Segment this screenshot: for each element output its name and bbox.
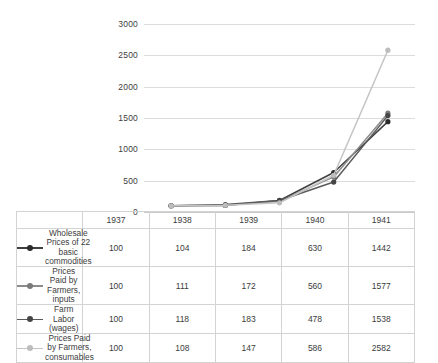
- y-axis-tick-label: 1000: [118, 144, 138, 154]
- data-table-container: 1937 1938 1939 1940 1941 Wholesale Price…: [16, 211, 415, 363]
- data-point-marker: [385, 113, 390, 118]
- table-cell-value: 1538: [348, 305, 414, 334]
- legend-marker-icon: [17, 315, 43, 324]
- series-legend-cell: Prices Paid by Farmers, consumables: [17, 334, 83, 363]
- table-cell-value: 478: [282, 305, 348, 334]
- table-cell-value: 147: [215, 334, 281, 363]
- legend-marker-icon: [17, 344, 43, 353]
- legend-marker-icon: [17, 281, 43, 290]
- table-cell-value: 2582: [348, 334, 414, 363]
- data-point-marker: [385, 119, 390, 124]
- data-point-marker: [331, 173, 336, 178]
- table-cell-value: 1577: [348, 267, 414, 305]
- plot-area: [144, 0, 415, 214]
- series-line: [171, 50, 388, 206]
- column-header-year: 1940: [282, 212, 348, 229]
- table-cell-value: 111: [149, 267, 215, 305]
- series-legend-cell: Wholesale Prices of 22 basic commodities: [17, 229, 83, 267]
- table-cell-value: 630: [282, 229, 348, 267]
- table-corner-cell: [17, 212, 83, 229]
- table-cell-value: 1442: [348, 229, 414, 267]
- series-4: [169, 48, 391, 209]
- y-axis-tick-label: 500: [123, 176, 138, 186]
- table-cell-value: 108: [149, 334, 215, 363]
- series-label: Wholesale Prices of 22 basic commodities: [45, 229, 92, 266]
- series-label: Prices Paid by Farmers, consumables: [45, 334, 94, 362]
- series-2: [169, 111, 391, 209]
- y-axis-tick-label: 2500: [118, 50, 138, 60]
- series-line: [171, 116, 388, 206]
- table-cell-value: 586: [282, 334, 348, 363]
- table-header-row: 1937 1938 1939 1940 1941: [17, 212, 415, 229]
- series-label: Prices Paid by Farmers, inputs: [45, 267, 82, 304]
- table-row: Prices Paid by Farmers, consumables10010…: [17, 334, 415, 363]
- series-label: Farm Labor (wages): [45, 305, 82, 333]
- data-point-marker: [223, 203, 228, 208]
- table-cell-value: 184: [215, 229, 281, 267]
- series-legend-cell: Farm Labor (wages): [17, 305, 83, 334]
- series-3: [169, 113, 391, 208]
- table-cell-value: 100: [83, 267, 149, 305]
- data-table: 1937 1938 1939 1940 1941 Wholesale Price…: [16, 211, 415, 363]
- series-legend-cell: Prices Paid by Farmers, inputs: [17, 267, 83, 305]
- y-axis-tick-label: 2000: [118, 82, 138, 92]
- table-row: Wholesale Prices of 22 basic commodities…: [17, 229, 415, 267]
- column-header-year: 1938: [149, 212, 215, 229]
- table-row: Farm Labor (wages)1001181834781538: [17, 305, 415, 334]
- table-body: Wholesale Prices of 22 basic commodities…: [17, 229, 415, 363]
- table-cell-value: 172: [215, 267, 281, 305]
- chart-plot-region: 050010001500200025003000: [0, 0, 438, 214]
- table-cell-value: 100: [83, 305, 149, 334]
- table-cell-value: 560: [282, 267, 348, 305]
- y-axis-tick-label: 1500: [118, 113, 138, 123]
- data-point-marker: [277, 200, 282, 205]
- data-point-marker: [169, 203, 174, 208]
- series-1: [169, 119, 391, 208]
- data-point-marker: [385, 48, 390, 53]
- column-header-year: 1941: [348, 212, 414, 229]
- series-lines: [144, 0, 415, 214]
- series-line: [171, 122, 388, 206]
- y-axis: 050010001500200025003000: [108, 0, 144, 214]
- column-header-year: 1939: [215, 212, 281, 229]
- legend-marker-icon: [17, 243, 43, 252]
- table-cell-value: 183: [215, 305, 281, 334]
- table-cell-value: 104: [149, 229, 215, 267]
- table-header: 1937 1938 1939 1940 1941: [17, 212, 415, 229]
- table-cell-value: 100: [83, 229, 149, 267]
- table-cell-value: 118: [149, 305, 215, 334]
- column-header-year: 1937: [83, 212, 149, 229]
- y-axis-tick-label: 3000: [118, 19, 138, 29]
- table-row: Prices Paid by Farmers, inputs1001111725…: [17, 267, 415, 305]
- data-point-marker: [331, 179, 336, 184]
